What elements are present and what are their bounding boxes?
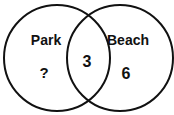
beach-label: Beach <box>107 32 149 48</box>
beach-only-value: 6 <box>122 65 131 82</box>
intersection-value: 3 <box>83 53 92 70</box>
park-circle <box>4 5 110 111</box>
park-only-value: ? <box>39 64 48 81</box>
park-label: Park <box>31 32 62 48</box>
venn-diagram: Park Beach ? 3 6 <box>0 0 174 115</box>
